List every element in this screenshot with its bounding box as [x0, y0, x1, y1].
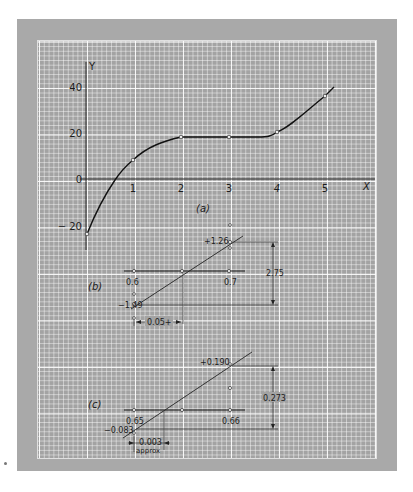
c-point: [180, 408, 183, 411]
y-tick-0: 0: [76, 174, 82, 185]
cubic-curve: [87, 87, 334, 234]
data-point: [323, 94, 327, 98]
data-point: [179, 135, 183, 139]
y-axis-label: Y: [88, 61, 96, 72]
c-y-bottom: −0.083: [104, 426, 134, 435]
b-point: [227, 269, 230, 272]
c-x-left: 0.65: [126, 417, 144, 426]
figure-overlay: Y X 40 20 0 − 20 1 2 3 4 5 (a) (b): [0, 0, 413, 492]
y-tick-20: 20: [69, 128, 82, 139]
panel-a-label: (a): [196, 203, 210, 214]
panel-a: Y X 40 20 0 − 20 1 2 3 4 5 (a): [58, 61, 375, 250]
x-tick-4: 4: [274, 183, 280, 194]
panel-b-label: (b): [88, 281, 102, 292]
c-delta-x: 0.003: [139, 438, 162, 447]
b-point: [228, 240, 231, 243]
data-point: [85, 232, 89, 236]
data-point: [131, 158, 135, 162]
c-point: [228, 386, 231, 389]
c-delta-y: 0.273: [263, 394, 286, 403]
panel-c-label: (c): [88, 399, 101, 410]
panel-c: (c) 0.65 0.66 +0.190 −0.083 0.273 0.003 …: [88, 352, 286, 455]
c-delta-x-note: approx: [136, 447, 160, 455]
b-point: [229, 247, 232, 250]
panel-b: (b) 0.6 0.7 +1.26 −1.49 2.75 0.05+: [88, 224, 284, 327]
b-y-top: +1.26: [204, 237, 229, 246]
b-delta-y: 2.75: [266, 269, 284, 278]
x-tick-3: 3: [226, 183, 232, 194]
b-point: [229, 224, 232, 227]
c-y-top: +0.190: [200, 358, 230, 367]
x-axis-label: X: [362, 181, 371, 192]
b-point: [133, 293, 136, 296]
b-x-left: 0.6: [126, 278, 139, 287]
y-tick-40: 40: [69, 82, 82, 93]
b-point: [133, 317, 136, 320]
c-x-right: 0.66: [222, 417, 240, 426]
b-delta-x: 0.05+: [147, 318, 172, 327]
c-point: [228, 408, 231, 411]
x-tick-1: 1: [130, 183, 136, 194]
b-secant-line: [131, 236, 243, 309]
data-point: [227, 135, 231, 139]
b-x-right: 0.7: [224, 278, 237, 287]
x-tick-2: 2: [178, 183, 184, 194]
x-tick-5: 5: [322, 183, 328, 194]
b-point: [132, 269, 135, 272]
b-y-bottom: −1.49: [118, 301, 143, 310]
data-point: [275, 130, 279, 134]
y-tick-neg20: − 20: [58, 221, 82, 232]
c-point: [132, 408, 135, 411]
